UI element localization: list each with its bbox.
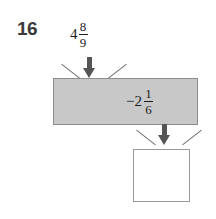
operation-bar: −2 1 6 <box>53 78 198 125</box>
funnel-tick-bottom-left <box>136 130 156 146</box>
funnel-tick-bottom-right <box>182 130 202 146</box>
arrow-down-icon-top <box>83 57 96 78</box>
input-whole-number: 4 <box>70 27 78 42</box>
problem-number: 16 <box>17 18 37 40</box>
operation-denominator: 6 <box>144 103 153 116</box>
operation-fraction: 1 6 <box>144 87 153 116</box>
arrow-down-icon-bottom <box>158 124 171 145</box>
operation-signed-whole: −2 <box>126 94 142 109</box>
worksheet-problem: 16 4 8 9 −2 1 6 <box>0 0 216 219</box>
arrow-head <box>83 68 95 78</box>
input-fraction: 8 9 <box>79 20 88 49</box>
funnel-tick-top-right <box>107 64 127 80</box>
answer-box[interactable] <box>133 149 190 202</box>
arrow-head <box>158 135 170 145</box>
operation-numerator: 1 <box>144 87 153 100</box>
input-denominator: 9 <box>79 36 88 49</box>
input-value-label: 4 8 9 <box>70 20 88 49</box>
operation-label: −2 1 6 <box>126 87 153 116</box>
operation-mixed-number: −2 1 6 <box>126 87 153 116</box>
input-numerator: 8 <box>79 20 88 33</box>
input-mixed-number: 4 8 9 <box>70 20 88 49</box>
funnel-tick-top-left <box>61 64 81 80</box>
